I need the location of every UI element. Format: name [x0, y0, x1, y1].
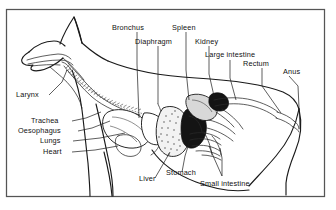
label-lungs: Lungs [40, 136, 61, 145]
label-large-intestine: Large intestine [205, 50, 255, 59]
anatomy-figure: Bronchus Diaphragm Spleen Kidney Large i… [0, 0, 336, 210]
label-stomach: Stomach [166, 168, 196, 177]
label-anus: Anus [283, 67, 300, 76]
label-rectum: Rectum [243, 59, 269, 68]
label-diaphragm: Diaphragm [135, 37, 172, 46]
label-small-intestine: Small intestine [200, 179, 250, 188]
label-trachea: Trachea [31, 116, 59, 125]
label-kidney: Kidney [195, 37, 218, 46]
figure-background [0, 0, 336, 210]
label-bronchus: Bronchus [112, 23, 144, 32]
label-liver: Liver [139, 174, 156, 183]
label-oesophagus: Oesophagus [18, 126, 61, 135]
kidney [209, 93, 229, 111]
label-spleen: Spleen [172, 23, 196, 32]
label-larynx: Larynx [16, 90, 39, 99]
label-heart: Heart [43, 147, 62, 156]
